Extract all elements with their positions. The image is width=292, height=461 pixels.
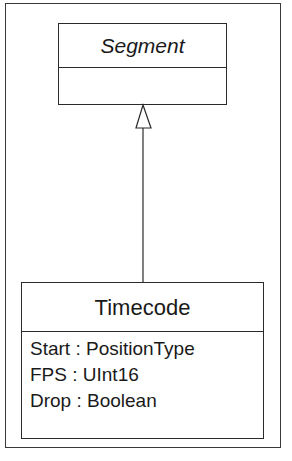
attribute-start: Start : PositionType <box>30 336 263 362</box>
hollow-triangle-icon <box>136 105 151 128</box>
attribute-compartment-timecode: Start : PositionType FPS : UInt16 Drop :… <box>22 332 263 414</box>
class-name-timecode: Timecode <box>22 283 263 332</box>
attribute-fps: FPS : UInt16 <box>30 362 263 388</box>
attribute-drop: Drop : Boolean <box>30 388 263 414</box>
class-timecode: Timecode Start : PositionType FPS : UInt… <box>21 282 264 439</box>
